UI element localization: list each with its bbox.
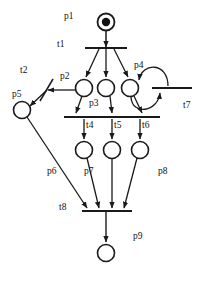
place-p2 <box>76 80 93 97</box>
label-p6: p6 <box>47 167 57 177</box>
label-t8: t8 <box>59 203 66 213</box>
place-p4 <box>122 80 139 97</box>
place-p8 <box>132 142 149 159</box>
label-p1: p1 <box>64 12 74 22</box>
label-p7: p7 <box>84 167 94 177</box>
place-p9 <box>98 245 115 262</box>
arc-t2-p5 <box>30 90 47 106</box>
arc-p5-t8 <box>27 117 87 208</box>
place-p3 <box>98 80 115 97</box>
arc-p8-t8 <box>124 158 137 208</box>
label-p9: p9 <box>133 232 143 242</box>
label-p5: p5 <box>12 90 22 100</box>
arc-p3-t5 <box>110 96 112 113</box>
label-t2: t2 <box>20 66 27 76</box>
label-p8: p8 <box>158 167 168 177</box>
label-p4: p4 <box>134 61 144 71</box>
label-t1: t1 <box>57 40 64 50</box>
place-p5 <box>14 102 31 119</box>
arc-p2-t4 <box>76 96 82 113</box>
petri-net-canvas <box>0 0 203 281</box>
label-p2: p2 <box>60 72 70 82</box>
label-t5: t5 <box>114 121 121 131</box>
arc-p4-t6 <box>134 96 142 113</box>
place-p6 <box>76 142 93 159</box>
arc-t1-p4 <box>114 49 128 77</box>
token-p1 <box>102 18 110 26</box>
label-p3: p3 <box>89 99 99 109</box>
label-t6: t6 <box>142 121 149 131</box>
petri-net-diagram: p1 t1 t2 p2 p4 p5 p3 t7 t4 t5 t6 p6 p7 p… <box>0 0 203 281</box>
label-t7: t7 <box>183 101 190 111</box>
label-t4: t4 <box>86 121 93 131</box>
place-p7 <box>104 142 121 159</box>
arc-t1-p2 <box>86 49 99 77</box>
